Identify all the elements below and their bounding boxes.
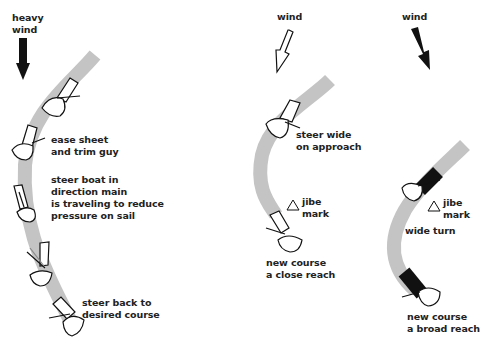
wind-label-close-reach: wind	[277, 11, 302, 23]
note-new-course-close: new course a close reach	[266, 257, 335, 281]
jibe-mark-label-broad: jibe mark	[443, 197, 470, 221]
boat-icon	[266, 211, 302, 252]
boat-icon	[49, 297, 84, 336]
note-wide-turn: wide turn	[405, 225, 455, 237]
jibe-mark-icon	[428, 201, 440, 211]
heavy-wind-arrow-icon	[16, 38, 30, 80]
note-ease-sheet: ease sheet and trim guy	[51, 134, 119, 158]
note-steer-boat: steer boat in direction main is travelin…	[51, 174, 164, 222]
jibe-mark-label-close: jibe mark	[302, 196, 329, 220]
wind-label-broad-reach: wind	[402, 11, 427, 23]
note-steer-back: steer back to desired course	[82, 297, 160, 321]
note-steer-wide: steer wide on approach	[296, 129, 362, 153]
sailing-jibe-diagram	[0, 0, 482, 344]
boat-icon	[27, 242, 52, 286]
note-new-course-broad: new course a broad reach	[407, 311, 480, 335]
jibe-mark-icon	[287, 200, 299, 210]
heavy-wind-label: heavy wind	[12, 12, 44, 36]
wind-arrow-solid-icon	[411, 27, 430, 70]
boat-icon	[266, 100, 300, 138]
wind-arrow-outline-icon	[276, 30, 293, 72]
